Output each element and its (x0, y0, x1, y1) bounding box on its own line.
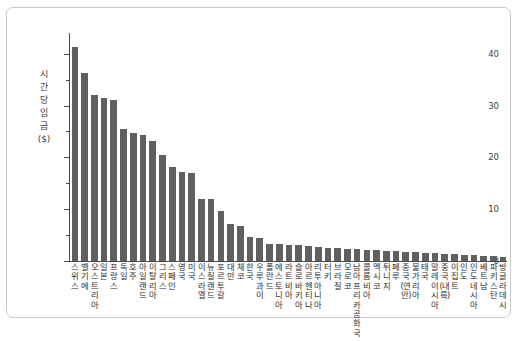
bar (247, 237, 254, 261)
x-axis-line (69, 261, 507, 262)
y-tick-minor (66, 235, 69, 236)
bar (500, 257, 507, 261)
bar (198, 199, 205, 261)
y-tick-mark (64, 209, 69, 210)
bar (305, 246, 312, 261)
bar (179, 172, 186, 261)
bar (169, 167, 176, 261)
y-tick-mark (64, 106, 69, 107)
x-tick-label: 방글라데시 (498, 263, 509, 310)
bar (266, 244, 273, 261)
bar (130, 133, 137, 261)
bar (480, 256, 487, 261)
bar (110, 100, 117, 261)
x-axis-labels: 스위스벨기에오스트리아일본프랑스독일호주아일랜드이탈리아그리스스페인영국미국이스… (70, 263, 507, 341)
bar-series (70, 33, 507, 261)
bar (315, 247, 322, 261)
bar (402, 252, 409, 261)
bar (451, 254, 458, 261)
bar (72, 47, 79, 261)
bar (159, 155, 166, 261)
bar (344, 249, 351, 261)
bar (373, 250, 380, 261)
bar (120, 129, 127, 261)
figure-frame: 시간당 임금($) 010203040 스위스벨기에오스트리아일본프랑스독일호주… (6, 7, 511, 318)
bar (461, 255, 468, 261)
y-tick-minor (66, 80, 69, 81)
bar (412, 252, 419, 261)
bar (101, 98, 108, 261)
bar (490, 256, 497, 261)
y-tick-minor (66, 183, 69, 184)
bar (334, 248, 341, 261)
y-tick-mark (64, 261, 69, 262)
y-tick-minor (66, 131, 69, 132)
bar (227, 224, 234, 261)
y-tick-mark (64, 157, 69, 158)
bar (149, 141, 156, 261)
bar (354, 249, 361, 261)
bar (295, 245, 302, 261)
y-tick-mark (64, 54, 69, 55)
bar (286, 245, 293, 261)
bar (256, 238, 263, 261)
bar (383, 251, 390, 261)
bar (208, 199, 215, 261)
bar (441, 254, 448, 261)
bar (422, 253, 429, 261)
bar (188, 173, 195, 261)
bar (471, 255, 478, 261)
bar (393, 251, 400, 261)
y-axis-title: 시간당 임금($) (37, 68, 51, 146)
bar (432, 253, 439, 261)
bar (81, 73, 88, 261)
bar (218, 211, 225, 261)
bar (91, 95, 98, 261)
bar (237, 226, 244, 261)
bar (140, 135, 147, 261)
bar (325, 248, 332, 261)
bar (364, 250, 371, 261)
plot-area: 010203040 스위스벨기에오스트리아일본프랑스독일호주아일랜드이탈리아그리… (69, 33, 507, 261)
bar (276, 244, 283, 261)
